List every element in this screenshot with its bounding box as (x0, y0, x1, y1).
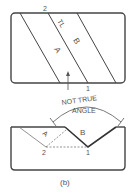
plane-a-label: A (52, 46, 63, 56)
edge-line-right (77, 13, 116, 83)
annotation-angle: ANGLE (72, 107, 96, 114)
front-point-2-label: 2 (42, 149, 46, 156)
v-notch (65, 127, 116, 147)
arc-tick-left (50, 118, 56, 126)
front-plane-a-label: A (41, 129, 49, 138)
true-length-label: TL (56, 18, 66, 29)
top-view: 2 TL B A 1 (11, 5, 125, 92)
annotation-not-true: NOT TRUE (61, 94, 97, 106)
front-plane-b-label: B (80, 128, 85, 137)
front-view: A B 2 1 (11, 127, 125, 170)
angle-annotation: NOT TRUE ANGLE (50, 94, 124, 126)
plane-b-label: B (71, 37, 81, 46)
technical-drawing: 2 TL B A 1 NOT TRUE ANGLE A B 2 1 (b) (0, 0, 136, 196)
point-2-label: 2 (43, 5, 47, 12)
front-point-1-label: 1 (86, 149, 90, 156)
arc-tick-right (118, 118, 124, 126)
arrow-head-icon (66, 71, 70, 76)
edge-2-line (19, 127, 46, 147)
figure-caption: (b) (60, 178, 70, 187)
point-1-label: 1 (86, 85, 90, 92)
